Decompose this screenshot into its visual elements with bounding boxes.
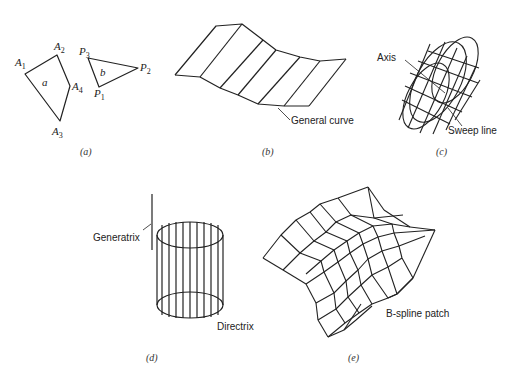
label-A3: A3 [52, 125, 63, 140]
label-A3-main: A [52, 125, 59, 137]
label-generatrix: Generatrix [93, 232, 140, 243]
cylinder [143, 194, 223, 318]
label-sweep-line: Sweep line [448, 125, 497, 136]
label-A1-main: A [15, 56, 22, 68]
label-general-curve: General curve [291, 115, 354, 126]
label-P3-main: P [79, 45, 86, 57]
label-A3-sub: 3 [59, 131, 63, 140]
label-P1-sub: 1 [101, 93, 105, 102]
label-A2-main: A [54, 40, 61, 52]
swept-surface [393, 30, 488, 136]
label-bspline-patch: B-spline patch [386, 308, 449, 319]
caption-a: (a) [80, 146, 92, 157]
caption-e: (e) [348, 352, 359, 363]
caption-d: (d) [146, 352, 158, 363]
label-A2: A2 [54, 40, 65, 55]
label-axis: Axis [377, 52, 396, 63]
general-curve-leader [278, 108, 290, 120]
caption-b: (b) [262, 146, 274, 157]
polygon-a [25, 55, 70, 121]
label-P1-main: P [94, 87, 101, 99]
label-A4-main: A [72, 80, 79, 92]
label-directrix: Directrix [217, 321, 254, 332]
label-P2-sub: 2 [147, 67, 151, 76]
ruled-surface [175, 24, 346, 106]
label-P3: P3 [79, 45, 90, 60]
caption-c: (c) [436, 146, 447, 157]
polygon-b [88, 58, 138, 87]
label-P3-sub: 3 [86, 51, 90, 60]
label-polygon-a: a [42, 76, 48, 88]
label-A1-sub: 1 [22, 62, 26, 71]
label-A1: A1 [15, 56, 26, 71]
label-A4: A4 [72, 80, 83, 95]
label-P2: P2 [140, 61, 151, 76]
label-P1: P1 [94, 87, 105, 102]
label-A2-sub: 2 [61, 46, 65, 55]
label-polygon-b: b [100, 66, 106, 78]
label-A4-sub: 4 [79, 86, 83, 95]
label-P2-main: P [140, 61, 147, 73]
